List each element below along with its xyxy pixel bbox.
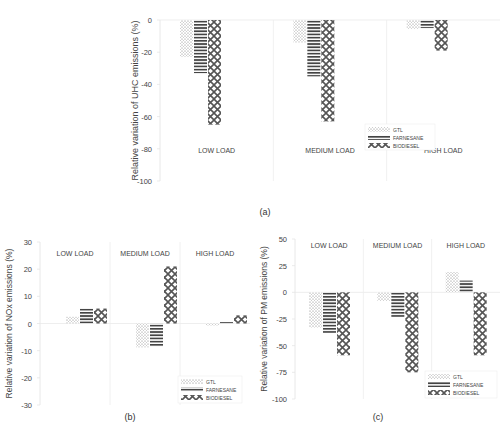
legend-swatch-gtl bbox=[428, 374, 450, 379]
nox-chart-svg: Relative variation of NOx emissions (%)3… bbox=[0, 232, 250, 412]
nox-chart: Relative variation of NOx emissions (%)3… bbox=[0, 232, 250, 412]
y-tick-label: 25 bbox=[279, 262, 287, 271]
bar-biodiesel bbox=[94, 309, 107, 324]
bar-biodiesel bbox=[234, 315, 247, 323]
bar-farnesane bbox=[391, 292, 404, 317]
legend-label: GTL bbox=[393, 127, 403, 133]
bar-gtl bbox=[136, 324, 149, 348]
legend-label: BIODIESEL bbox=[453, 390, 480, 396]
y-tick-label: -20 bbox=[141, 48, 152, 57]
legend-label: FARNESANE bbox=[453, 382, 484, 388]
y-axis-label: Relative variation of NOx emissions (%) bbox=[4, 248, 14, 398]
y-tick-label: 0 bbox=[283, 288, 287, 297]
y-tick-label: -10 bbox=[21, 347, 32, 356]
legend-swatch-farnesane bbox=[368, 135, 390, 140]
legend: GTLFARNESANEBIODIESEL bbox=[425, 371, 497, 398]
bar-gtl bbox=[66, 317, 79, 324]
caption-a: (a) bbox=[245, 207, 285, 217]
y-tick-label: 0 bbox=[28, 320, 32, 329]
caption-c: (c) bbox=[358, 412, 398, 422]
legend: GTLFARNESANEBIODIESEL bbox=[178, 376, 242, 403]
bar-farnesane bbox=[323, 292, 336, 333]
bar-gtl bbox=[407, 20, 420, 29]
bar-biodiesel bbox=[405, 292, 418, 372]
bar-farnesane bbox=[150, 324, 163, 347]
legend: GTLFARNESANEBIODIESEL bbox=[365, 124, 435, 150]
bar-gtl bbox=[309, 292, 322, 327]
legend-label: BIODIESEL bbox=[206, 395, 233, 401]
y-tick-label: -100 bbox=[137, 177, 152, 186]
y-axis-label: Relative variation of PM emissions (%) bbox=[259, 246, 269, 392]
y-tick-label: -80 bbox=[141, 145, 152, 154]
pm-chart: Relative variation of PM emissions (%)50… bbox=[255, 232, 500, 412]
category-label: MEDIUM LOAD bbox=[373, 242, 422, 249]
bar-gtl bbox=[206, 324, 219, 326]
legend-label: FARNESANE bbox=[206, 387, 237, 393]
uhc-chart: Relative variation of UHC emissions (%)0… bbox=[130, 8, 500, 198]
legend-label: GTL bbox=[453, 374, 463, 380]
category-label: HIGH LOAD bbox=[196, 250, 235, 257]
bar-biodiesel bbox=[435, 20, 448, 51]
legend-swatch-biodiesel bbox=[181, 395, 203, 400]
bar-gtl bbox=[293, 20, 306, 43]
category-label: LOW LOAD bbox=[311, 242, 348, 249]
bar-farnesane bbox=[80, 309, 93, 324]
y-tick-label: -20 bbox=[21, 374, 32, 383]
y-axis-label: Relative variation of UHC emissions (%) bbox=[130, 20, 140, 180]
legend-swatch-biodiesel bbox=[368, 143, 390, 148]
legend-swatch-farnesane bbox=[428, 382, 450, 387]
pm-chart-svg: Relative variation of PM emissions (%)50… bbox=[255, 232, 500, 412]
legend-swatch-farnesane bbox=[181, 387, 203, 392]
y-tick-label: 30 bbox=[24, 238, 32, 247]
bar-farnesane bbox=[307, 20, 320, 76]
category-label: LOW LOAD bbox=[198, 147, 235, 154]
y-tick-label: 20 bbox=[24, 265, 32, 274]
category-label: MEDIUM LOAD bbox=[305, 147, 354, 154]
y-tick-label: -30 bbox=[21, 401, 32, 410]
bar-biodiesel bbox=[208, 20, 221, 125]
y-tick-label: -50 bbox=[276, 342, 287, 351]
y-tick-label: 10 bbox=[24, 292, 32, 301]
bar-biodiesel bbox=[337, 292, 350, 355]
legend-label: FARNESANE bbox=[393, 135, 424, 141]
bar-biodiesel bbox=[474, 292, 487, 355]
bar-farnesane bbox=[220, 322, 233, 323]
bar-gtl bbox=[446, 272, 459, 292]
legend-swatch-gtl bbox=[368, 127, 390, 132]
y-tick-label: 50 bbox=[279, 235, 287, 244]
y-tick-label: -60 bbox=[141, 113, 152, 122]
uhc-chart-svg: Relative variation of UHC emissions (%)0… bbox=[130, 8, 500, 198]
category-label: LOW LOAD bbox=[57, 250, 94, 257]
legend-label: BIODIESEL bbox=[393, 143, 420, 149]
y-tick-label: -100 bbox=[272, 395, 287, 404]
legend-swatch-gtl bbox=[181, 379, 203, 384]
bar-gtl bbox=[180, 20, 193, 57]
category-label: MEDIUM LOAD bbox=[120, 250, 169, 257]
bar-farnesane bbox=[421, 20, 434, 28]
y-tick-label: 0 bbox=[148, 16, 152, 25]
bar-farnesane bbox=[194, 20, 207, 73]
legend-swatch-biodiesel bbox=[428, 390, 450, 395]
category-label: HIGH LOAD bbox=[447, 242, 486, 249]
bar-farnesane bbox=[460, 281, 473, 293]
y-tick-label: -75 bbox=[276, 368, 287, 377]
y-tick-label: -25 bbox=[276, 315, 287, 324]
bar-biodiesel bbox=[164, 266, 177, 323]
y-tick-label: -40 bbox=[141, 80, 152, 89]
legend-label: GTL bbox=[206, 379, 216, 385]
bar-gtl bbox=[377, 292, 390, 301]
bar-biodiesel bbox=[321, 20, 334, 121]
caption-b: (b) bbox=[110, 412, 150, 422]
